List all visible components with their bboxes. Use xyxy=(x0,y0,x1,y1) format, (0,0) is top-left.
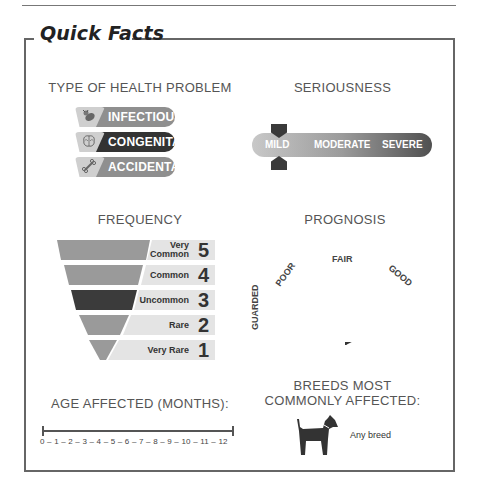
badge-label: CONGENITAL xyxy=(108,135,188,149)
frequency-very-common: Very Common 5 xyxy=(150,240,215,260)
box-border-top-left xyxy=(24,38,34,40)
freq-number: 3 xyxy=(198,289,209,312)
age-heading: AGE AFFECTED (MONTHS): xyxy=(40,396,240,411)
freq-number: 5 xyxy=(198,239,209,262)
dog-icon xyxy=(295,415,340,457)
brain-icon xyxy=(81,134,97,148)
level-severe: SEVERE xyxy=(382,139,423,150)
freq-number: 1 xyxy=(198,339,209,362)
frequency-common: Common 4 xyxy=(150,265,215,285)
age-range-line xyxy=(42,430,234,432)
bone-icon xyxy=(81,159,97,173)
bacteria-icon xyxy=(81,109,97,123)
frequency-uncommon: Uncommon 3 xyxy=(140,290,215,310)
badge-label: ACCIDENTAL xyxy=(108,160,187,174)
seriousness-heading: SERIOUSNESS xyxy=(255,80,430,95)
level-moderate: MODERATE xyxy=(314,139,370,150)
breeds-heading-line1: BREEDS MOST xyxy=(255,378,430,393)
frequency-very-rare: Very Rare 1 xyxy=(130,340,215,360)
freq-label: Common xyxy=(150,271,189,280)
breeds-heading-line2: COMMONLY AFFECTED: xyxy=(255,393,430,408)
box-border-top-right xyxy=(132,38,455,40)
quick-facts-title: Quick Facts xyxy=(40,22,164,44)
prognosis-label-excellent: EXCELLENT xyxy=(417,286,438,338)
frequency-heading: FREQUENCY xyxy=(55,212,225,227)
freq-label-line2: Common xyxy=(150,250,189,259)
age-scale: 0 – 1 – 2 – 3 – 4 – 5 – 6 – 7 – 8 – 9 – … xyxy=(40,437,228,446)
top-divider xyxy=(22,5,456,6)
freq-label: Uncommon xyxy=(140,296,190,305)
health-type-congenital: CONGENITAL xyxy=(75,132,175,152)
freq-number: 4 xyxy=(198,264,209,287)
prognosis-gauge: GUARDED POOR FAIR GOOD EXCELLENT xyxy=(248,245,438,345)
prognosis-label-guarded: GUARDED xyxy=(250,284,260,330)
level-mild: MILD xyxy=(265,139,289,150)
prognosis-label-fair: FAIR xyxy=(332,254,353,264)
freq-number: 2 xyxy=(198,314,209,337)
age-range-end-tick xyxy=(232,426,234,436)
age-range-start-tick xyxy=(42,426,44,436)
breeds-heading: BREEDS MOST COMMONLY AFFECTED: xyxy=(255,378,430,408)
frequency-rare: Rare 2 xyxy=(140,315,215,335)
freq-label: Rare xyxy=(169,321,189,330)
prognosis-label-good: GOOD xyxy=(387,263,415,289)
health-type-infectious: INFECTIOUS xyxy=(75,107,175,127)
prognosis-label-poor: POOR xyxy=(274,260,298,288)
badge-label: INFECTIOUS xyxy=(108,110,183,124)
freq-label: Very Rare xyxy=(147,346,189,355)
health-type-heading: TYPE OF HEALTH PROBLEM xyxy=(40,80,240,95)
prognosis-heading: PROGNOSIS xyxy=(265,212,425,227)
breeds-value: Any breed xyxy=(350,430,391,440)
health-type-accidental: ACCIDENTAL xyxy=(75,157,175,177)
